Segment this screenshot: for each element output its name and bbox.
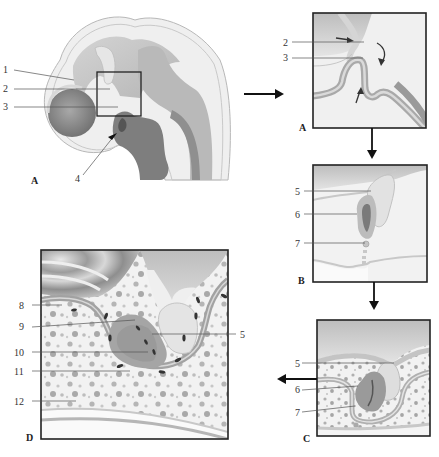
label-4: 4 [75,173,80,184]
c-label-6: 6 [295,384,300,395]
panel-letter-a-inset: A [299,122,307,133]
d-label-11: 11 [14,366,24,377]
panel-b: 5 6 7 B [295,165,427,286]
panel-letter-b: B [298,275,305,286]
panel-a-inset: 2 3 A [283,13,430,133]
panel-letter-a: A [31,175,39,186]
pituitary-development-diagram: 1 2 3 4 A 2 3 [0,0,439,457]
arrow-right-icon [244,89,284,99]
d-label-9: 9 [19,321,24,332]
b-label-5: 5 [295,186,300,197]
panel-letter-c: C [303,433,310,444]
c-label-5: 5 [295,358,300,369]
panel-a-overview: 1 2 3 4 A [3,17,230,186]
panel-letter-d: D [26,432,33,443]
inset-label-2: 2 [283,37,288,48]
d-label-12: 12 [14,396,24,407]
label-1: 1 [3,64,8,75]
c-label-7: 7 [295,407,300,418]
label-2: 2 [3,83,8,94]
arrow-down-icon [367,128,377,159]
inset-label-3: 3 [283,52,288,63]
panel-d: 8 9 10 11 12 5 D [14,250,245,443]
panel-c: 5 6 7 C [295,320,430,444]
d-label-5: 5 [240,329,245,340]
d-label-8: 8 [19,300,24,311]
arrow-left-icon [277,374,317,384]
label-3: 3 [3,101,8,112]
b-label-7: 7 [295,238,300,249]
b-label-6: 6 [295,209,300,220]
arrow-down-icon [369,282,379,310]
d-label-10: 10 [14,347,24,358]
